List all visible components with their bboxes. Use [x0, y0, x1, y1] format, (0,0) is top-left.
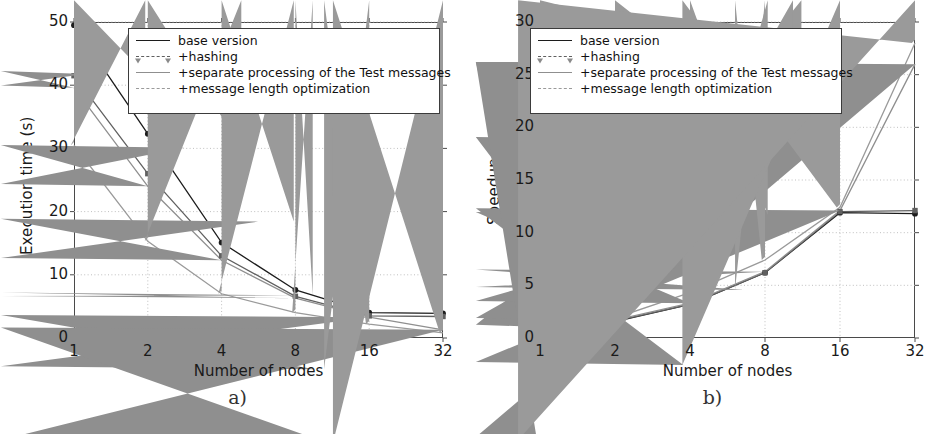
x-tick-label: 4	[202, 342, 242, 360]
x-tick-label: 8	[745, 342, 785, 360]
legend-a: base version +hashing +separate processi…	[128, 28, 440, 114]
legend-label: base version	[178, 34, 258, 48]
y-tick-label: 5	[496, 275, 534, 293]
legend-label: +separate processing of the Test message…	[178, 66, 451, 80]
y-tick-label: 20	[30, 202, 68, 220]
x-axis-label-a: Number of nodes	[74, 362, 443, 380]
y-tick-label: 15	[496, 170, 534, 188]
legend-item[interactable]: +separate processing of the Test message…	[536, 65, 835, 81]
legend-label: base version	[580, 34, 660, 48]
legend-marker-diamond-icon	[536, 82, 574, 96]
x-tick-label: 16	[349, 342, 389, 360]
y-tick-label: 20	[496, 117, 534, 135]
y-tick-label: 10	[496, 223, 534, 241]
subplot-caption-a: a)	[0, 386, 475, 408]
subplot-b: Speedup 05101520253012481632 Number of n…	[475, 0, 950, 434]
y-tick-label: 50	[30, 12, 68, 30]
legend-item[interactable]: +message length optimization	[536, 81, 835, 97]
y-tick-label: 30	[30, 138, 68, 156]
legend-b: base version +hashing +separate processi…	[530, 28, 842, 114]
x-tick-label: 32	[423, 342, 463, 360]
x-tick-label: 32	[895, 342, 935, 360]
figure-canvas: Execution time (s) 0102030405012481632 N…	[0, 0, 950, 434]
subplot-caption-b: b)	[475, 386, 950, 408]
legend-marker-diamond-icon	[134, 82, 172, 96]
x-tick-label: 4	[670, 342, 710, 360]
legend-marker-circle-icon	[536, 34, 574, 48]
legend-label: +message length optimization	[178, 82, 370, 96]
legend-label: +hashing	[178, 50, 238, 64]
x-tick-label: 2	[128, 342, 168, 360]
legend-marker-triangle-icon	[536, 66, 574, 80]
legend-label: +hashing	[580, 50, 640, 64]
x-tick-label: 1	[54, 342, 94, 360]
legend-item[interactable]: base version	[134, 33, 433, 49]
x-axis-label-b: Number of nodes	[540, 362, 915, 380]
legend-label: +message length optimization	[580, 82, 772, 96]
subplot-a: Execution time (s) 0102030405012481632 N…	[0, 0, 475, 434]
legend-item[interactable]: +hashing	[536, 49, 835, 65]
legend-marker-circle-icon	[134, 34, 172, 48]
legend-item[interactable]: +hashing	[134, 49, 433, 65]
legend-label: +separate processing of the Test message…	[580, 66, 853, 80]
x-tick-label: 8	[275, 342, 315, 360]
y-tick-label: 30	[496, 12, 534, 30]
y-tick-label: 25	[496, 65, 534, 83]
legend-item[interactable]: +message length optimization	[134, 81, 433, 97]
x-tick-label: 2	[595, 342, 635, 360]
legend-item[interactable]: +separate processing of the Test message…	[134, 65, 433, 81]
y-tick-label: 10	[30, 265, 68, 283]
y-tick-label: 40	[30, 75, 68, 93]
legend-item[interactable]: base version	[536, 33, 835, 49]
x-tick-label: 16	[820, 342, 860, 360]
legend-marker-triangle-icon	[134, 66, 172, 80]
x-tick-label: 1	[520, 342, 560, 360]
